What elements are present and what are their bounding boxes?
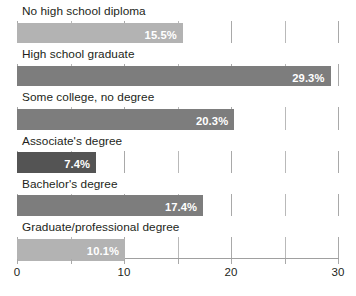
category-label: High school graduate: [22, 47, 135, 61]
tick-mark-5: [71, 259, 72, 264]
bar-chart: No high school diploma15.5%High school g…: [0, 0, 356, 296]
x-tick-label: 30: [332, 266, 345, 278]
category-label: Associate's degree: [22, 134, 122, 148]
bar-value-label: 10.1%: [87, 245, 119, 257]
bar-value-label: 7.4%: [64, 158, 90, 170]
tick-mark-15: [178, 259, 179, 264]
category-label: Some college, no degree: [22, 90, 154, 104]
x-tick-label: 10: [118, 266, 131, 278]
tick-mark-0: [17, 259, 18, 264]
tick-mark-20: [231, 259, 232, 264]
bar-value-label: 20.3%: [196, 115, 228, 127]
x-tick-label: 20: [225, 266, 238, 278]
bar-value-label: 17.4%: [165, 201, 197, 213]
x-tick-label: 0: [14, 266, 21, 278]
bar-value-label: 15.5%: [145, 29, 177, 41]
category-label: No high school diploma: [22, 4, 146, 18]
tick-mark-10: [124, 259, 125, 264]
category-label: Graduate/professional degree: [22, 220, 179, 234]
tick-mark-25: [285, 259, 286, 264]
bar-value-label: 29.3%: [292, 72, 324, 84]
bar: [17, 66, 331, 89]
tick-mark-30: [338, 259, 339, 264]
category-label: Bachelor's degree: [22, 177, 118, 191]
